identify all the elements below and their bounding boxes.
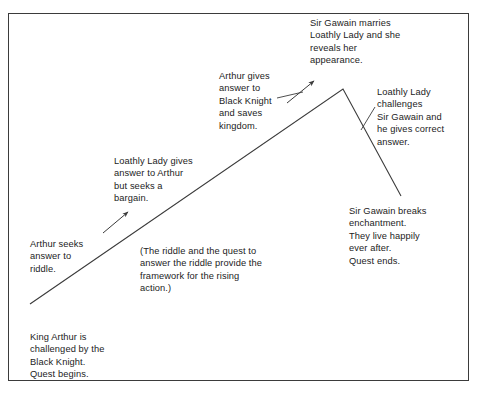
label-falling-action-1: Loathly Lady challenges Sir Gawain and h… <box>377 86 477 148</box>
label-aside-note: (The riddle and the quest to answer the … <box>140 245 310 295</box>
label-rising-action-1: Loathly Lady gives answer to Arthur but … <box>114 155 224 205</box>
label-inciting-incident: Arthur seeks answer to riddle. <box>30 238 130 275</box>
label-climax: Sir Gawain marries Loathly Lady and she … <box>310 17 430 67</box>
plot-diagram: Sir Gawain marries Loathly Lady and she … <box>0 0 488 394</box>
label-resolution: Sir Gawain breaks enchantment. They live… <box>349 205 467 267</box>
label-exposition: King Arthur is challenged by the Black K… <box>30 331 155 381</box>
diagram-frame-border <box>8 13 469 381</box>
label-rising-action-2: Arthur gives answer to Black Knight and … <box>219 70 311 132</box>
